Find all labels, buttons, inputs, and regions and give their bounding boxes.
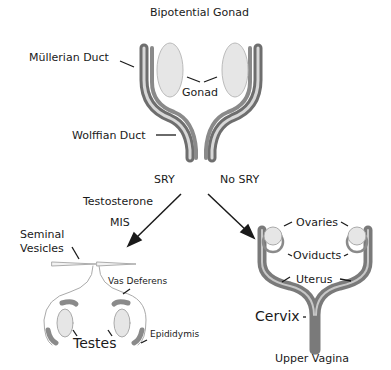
label-cervix: Cervix [255, 309, 300, 323]
label-mis: MIS [110, 217, 130, 228]
label-seminal: Seminal [20, 229, 64, 240]
label-oviducts: Oviducts [293, 250, 341, 261]
label-upper-vagina: Upper Vagina [275, 353, 349, 364]
male-structures [44, 262, 146, 345]
label-epididymis: Epididymis [150, 330, 199, 339]
label-testes: Testes [73, 336, 116, 350]
label-gonad: Gonad [182, 87, 218, 98]
label-ovaries: Ovaries [296, 217, 338, 228]
label-mullerian-duct: Müllerian Duct [29, 52, 109, 63]
label-testosterone: Testosterone [83, 196, 153, 207]
label-uterus: Uterus [296, 274, 332, 285]
label-sry: SRY [154, 174, 175, 185]
label-vesicles: Vesicles [20, 243, 64, 254]
label-no-sry: No SRY [220, 174, 259, 185]
female-structures [262, 227, 368, 350]
title-bipotential-gonad: Bipotential Gonad [150, 7, 249, 18]
label-vas-deferens: Vas Deferens [108, 277, 167, 286]
leader-lines-male [72, 247, 147, 343]
label-wolffian-duct: Wolffian Duct [72, 130, 146, 141]
